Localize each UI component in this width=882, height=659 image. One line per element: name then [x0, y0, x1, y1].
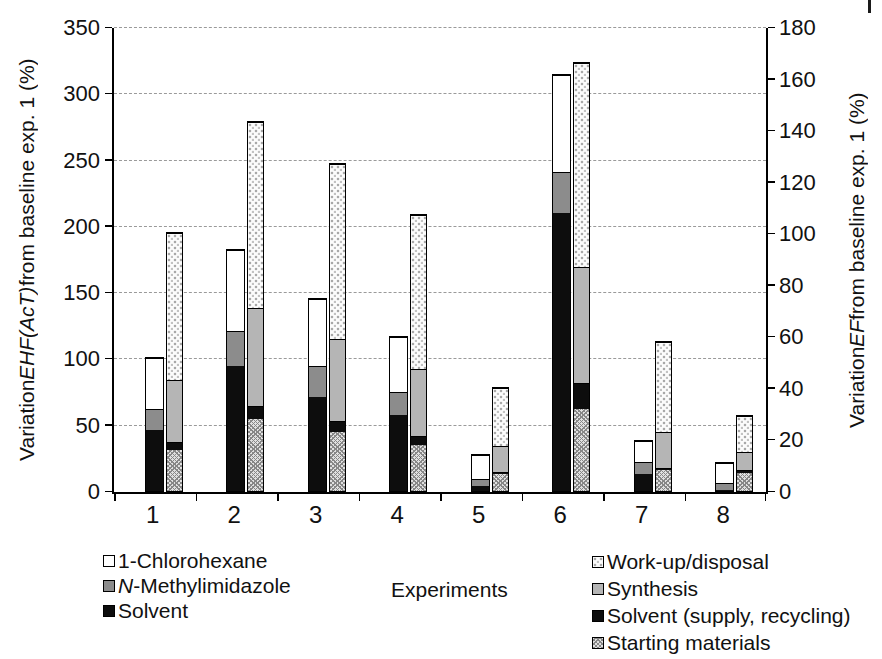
- bar-ehf-exp2: [226, 249, 245, 492]
- bar-ef-exp7: [655, 341, 672, 493]
- segment-solvent-exp6: [553, 213, 570, 491]
- left-axis-tick-50: [105, 424, 112, 426]
- right-axis-tick-160: [768, 78, 775, 80]
- right-axis-label-120: 120: [779, 172, 841, 194]
- segment-solvent-exp4: [390, 415, 407, 491]
- legend-label-solvent: Solvent: [118, 599, 188, 623]
- right-axis-tick-40: [768, 387, 775, 389]
- segment-solvent-exp7: [635, 474, 652, 491]
- legend-label-starting-materials: Starting materials: [607, 631, 770, 655]
- left-axis-tick-0: [105, 491, 112, 493]
- segment-starting-materials-exp1: [167, 450, 182, 491]
- segment-solvent-supply-recycling-exp2: [248, 406, 263, 419]
- left-axis-label-300: 300: [38, 83, 100, 105]
- legend-label-synthesis: Synthesis: [607, 577, 698, 601]
- left-axis-label-250: 250: [38, 150, 100, 172]
- x-axis-tick-8: [765, 494, 767, 501]
- bar-ef-exp4: [410, 214, 427, 492]
- left-axis-title-pre: Variation: [15, 380, 39, 461]
- bar-ehf-exp5: [471, 454, 490, 492]
- segment-1-chlorohexane-exp5: [472, 455, 489, 479]
- bar-ehf-exp6: [552, 74, 571, 492]
- legend-swatch-synthesis: [592, 583, 604, 595]
- segment-starting-materials-exp3: [330, 432, 345, 491]
- segment-n-methylimidazole-exp4: [390, 392, 407, 416]
- segment-synthesis-exp1: [167, 380, 182, 442]
- right-axis-label-100: 100: [779, 223, 841, 245]
- segment-work-up-disposal-exp6: [574, 63, 589, 267]
- segment-synthesis-exp6: [574, 267, 589, 383]
- right-axis-tick-140: [768, 130, 775, 132]
- right-axis-tick-60: [768, 336, 775, 338]
- page-corner-mark: [868, 0, 871, 13]
- legend-swatch-starting-materials: [592, 637, 604, 649]
- legend-item-work-up-disposal: Work-up/disposal: [592, 551, 851, 572]
- right-axis-label-180: 180: [779, 17, 841, 39]
- bar-ehf-exp8: [715, 462, 734, 492]
- gridline-150: [114, 292, 766, 293]
- segment-solvent-exp1: [146, 430, 163, 491]
- left-axis-tick-250: [105, 159, 112, 161]
- segment-synthesis-exp8: [737, 452, 752, 470]
- gridline-200: [114, 226, 766, 227]
- segment-n-methylimidazole-exp8: [716, 483, 733, 490]
- segment-solvent-supply-recycling-exp3: [330, 421, 345, 431]
- segment-synthesis-exp5: [493, 446, 508, 472]
- legend-item-solvent-supply-recycling: Solvent (supply, recycling): [592, 605, 851, 626]
- gridline-300: [114, 93, 766, 94]
- legend-item-solvent: Solvent: [103, 600, 291, 621]
- gridline-350: [114, 27, 766, 28]
- right-axis-label-20: 20: [779, 429, 841, 451]
- segment-starting-materials-exp4: [411, 445, 426, 491]
- segment-n-methylimidazole-exp2: [227, 331, 244, 367]
- bar-ehf-exp1: [145, 357, 164, 492]
- segment-work-up-disposal-exp8: [737, 416, 752, 452]
- right-axis-label-40: 40: [779, 378, 841, 400]
- segment-starting-materials-exp8: [737, 473, 752, 491]
- right-axis-tick-80: [768, 284, 775, 286]
- bar-ef-exp1: [166, 232, 183, 492]
- segment-work-up-disposal-exp1: [167, 233, 182, 380]
- segment-n-methylimidazole-exp5: [472, 479, 489, 486]
- right-axis-tick-100: [768, 233, 775, 235]
- x-axis-tick-1: [196, 494, 198, 501]
- segment-synthesis-exp3: [330, 339, 345, 421]
- segment-work-up-disposal-exp5: [493, 388, 508, 446]
- x-category-label-1: 1: [131, 503, 175, 527]
- left-axis-label-100: 100: [38, 348, 100, 370]
- legend-swatch-work-up-disposal: [592, 556, 604, 568]
- x-axis-tick-3: [359, 494, 361, 501]
- right-axis-label-140: 140: [779, 120, 841, 142]
- left-axis-title-post: from baseline exp. 1 (%): [15, 59, 39, 287]
- right-axis-title-post: from baseline exp. 1 (%): [845, 92, 869, 320]
- segment-starting-materials-exp5: [493, 474, 508, 491]
- legend-item-1-chlorohexane: 1-Chlorohexane: [103, 550, 291, 571]
- left-axis-title-em: EHF(AcT): [15, 286, 39, 379]
- segment-n-methylimidazole-exp3: [309, 366, 326, 396]
- legend-label-solvent-supply-recycling: Solvent (supply, recycling): [607, 604, 851, 628]
- segment-n-methylimidazole-exp7: [635, 462, 652, 474]
- segment-synthesis-exp2: [248, 308, 263, 406]
- segment-starting-materials-exp6: [574, 409, 589, 491]
- segment-1-chlorohexane-exp8: [716, 463, 733, 483]
- legend-item-synthesis: Synthesis: [592, 578, 851, 599]
- segment-work-up-disposal-exp4: [411, 215, 426, 368]
- bar-ehf-exp4: [389, 336, 408, 492]
- right-axis-tick-120: [768, 181, 775, 183]
- segment-1-chlorohexane-exp7: [635, 441, 652, 462]
- x-category-label-4: 4: [375, 503, 419, 527]
- left-axis-label-350: 350: [38, 17, 100, 39]
- left-axis-tick-300: [105, 93, 112, 95]
- segment-solvent-exp2: [227, 366, 244, 491]
- figure-stacked-bar-chart: Variation EHF(AcT) from baseline exp. 1 …: [0, 0, 882, 659]
- left-axis-label-150: 150: [38, 282, 100, 304]
- segment-solvent-supply-recycling-exp4: [411, 436, 426, 445]
- segment-n-methylimidazole-exp1: [146, 409, 163, 430]
- left-axis-tick-350: [105, 27, 112, 29]
- right-axis-title-pre: Variation: [845, 347, 869, 428]
- gridline-250: [114, 160, 766, 161]
- legend-swatch-solvent-supply-recycling: [592, 610, 604, 622]
- legend-label-work-up-disposal: Work-up/disposal: [607, 550, 769, 574]
- segment-solvent-supply-recycling-exp6: [574, 383, 589, 409]
- x-category-label-3: 3: [294, 503, 338, 527]
